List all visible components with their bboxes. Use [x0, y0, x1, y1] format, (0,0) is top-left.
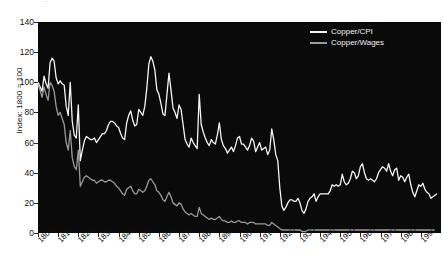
x-tick-label: 1800: [36, 225, 55, 244]
x-tick-label: 1850: [137, 225, 156, 244]
x-tick-label: 1980: [399, 225, 418, 244]
y-tick-mark: [34, 52, 38, 53]
chart-container: .. Index: 1800 = 100 020406080100120140 …: [0, 0, 443, 266]
y-tick-mark: [34, 203, 38, 204]
x-tick-label: 1910: [258, 225, 277, 244]
x-tick-label: 1900: [238, 225, 257, 244]
x-tick-label: 1810: [56, 225, 75, 244]
legend-item-2: Copper/Wages: [310, 37, 384, 48]
x-tick-label: 1930: [298, 225, 317, 244]
x-tick-label: 1990: [419, 225, 438, 244]
legend-item-1: Copper/CPI: [310, 26, 384, 37]
x-tick-label: 1840: [117, 225, 136, 244]
x-tick-label: 1820: [76, 225, 95, 244]
legend-label: Copper/CPI: [331, 26, 373, 37]
x-tick-label: 1940: [318, 225, 337, 244]
x-tick-label: 1880: [197, 225, 216, 244]
legend-swatch-icon: [310, 42, 327, 44]
y-tick-mark: [34, 82, 38, 83]
x-tick-label: 1960: [358, 225, 377, 244]
y-tick-mark: [34, 173, 38, 174]
legend-swatch-icon: [310, 31, 327, 33]
x-tick-label: 1970: [379, 225, 398, 244]
x-tick-label: 1870: [177, 225, 196, 244]
x-tick-label: 1830: [96, 225, 115, 244]
legend-label: Copper/Wages: [331, 37, 384, 48]
x-tick-label: 1950: [338, 225, 357, 244]
y-tick-mark: [34, 233, 38, 234]
y-tick-mark: [34, 143, 38, 144]
x-tick-label: 1890: [217, 225, 236, 244]
y-tick-mark: [34, 112, 38, 113]
x-tick-label: 1860: [157, 225, 176, 244]
x-tick-label: 1920: [278, 225, 297, 244]
y-tick-mark: [34, 22, 38, 23]
chart-legend: Copper/CPICopper/Wages: [306, 24, 388, 50]
